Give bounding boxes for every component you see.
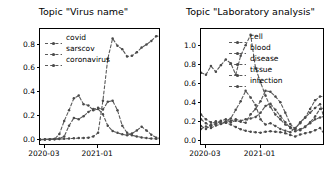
legend-item-sarscov[interactable]: sarscov bbox=[45, 43, 110, 54]
x-tick-mark bbox=[205, 145, 206, 148]
legend-label: coronavirus bbox=[66, 55, 110, 64]
chart-title-right: Topic "Laboratory analysis" bbox=[167, 6, 334, 17]
series-disease bbox=[201, 90, 324, 132]
x-tick-label: 2021-01 bbox=[81, 149, 112, 158]
legend: covidsarscovcoronavirus bbox=[45, 32, 110, 65]
x-tick-mark bbox=[44, 145, 45, 148]
legend-line-marker-icon bbox=[229, 43, 246, 52]
chart-title-left: Topic "Virus name" bbox=[0, 6, 167, 17]
y-tick-mark bbox=[198, 45, 201, 46]
y-tick-mark bbox=[37, 115, 40, 116]
legend-line-marker-icon bbox=[229, 32, 246, 41]
y-tick-label: 0.2 bbox=[184, 117, 196, 126]
panel-right: Topic "Laboratory analysis" 0.00.20.40.6… bbox=[167, 0, 334, 177]
y-tick-mark bbox=[37, 91, 40, 92]
legend-line-marker-icon bbox=[229, 54, 246, 63]
legend-item-coronavirus[interactable]: coronavirus bbox=[45, 54, 110, 65]
legend-line-marker-icon bbox=[229, 76, 246, 85]
y-tick-label: 0.4 bbox=[184, 98, 196, 107]
panel-left: Topic "Virus name" 0.00.20.40.60.82020-0… bbox=[0, 0, 167, 177]
legend-label: tissue bbox=[250, 65, 272, 74]
legend-label: blood bbox=[250, 43, 271, 52]
y-tick-label: 0.8 bbox=[184, 60, 196, 69]
y-tick-mark bbox=[198, 121, 201, 122]
y-tick-label: 0.8 bbox=[23, 39, 35, 48]
figure-twin-line-charts: Topic "Virus name" 0.00.20.40.60.82020-0… bbox=[0, 0, 334, 177]
y-tick-mark bbox=[198, 83, 201, 84]
legend-line-marker-icon bbox=[229, 65, 246, 74]
y-tick-mark bbox=[198, 102, 201, 103]
x-tick-mark bbox=[260, 145, 261, 148]
y-tick-label: 0.0 bbox=[184, 136, 196, 145]
legend-item-infection[interactable]: infection bbox=[229, 75, 283, 86]
legend-label: disease bbox=[250, 54, 278, 63]
legend-label: sarscov bbox=[66, 44, 95, 53]
legend-line-marker-icon bbox=[45, 55, 62, 64]
legend-item-tissue[interactable]: tissue bbox=[229, 64, 283, 75]
legend-label: infection bbox=[250, 76, 283, 85]
y-tick-label: 0.2 bbox=[23, 111, 35, 120]
x-tick-label: 2021-01 bbox=[244, 149, 275, 158]
legend-item-cell[interactable]: cell bbox=[229, 31, 283, 42]
y-tick-mark bbox=[198, 64, 201, 65]
y-tick-label: 1.0 bbox=[184, 41, 196, 50]
legend-line-marker-icon bbox=[45, 44, 62, 53]
y-tick-label: 0.4 bbox=[23, 87, 35, 96]
y-tick-mark bbox=[37, 139, 40, 140]
legend-label: covid bbox=[66, 33, 86, 42]
legend: cellblooddiseasetissueinfection bbox=[229, 31, 283, 86]
legend-line-marker-icon bbox=[45, 33, 62, 42]
legend-label: cell bbox=[250, 32, 263, 41]
y-tick-label: 0.6 bbox=[184, 79, 196, 88]
x-tick-mark bbox=[97, 145, 98, 148]
x-tick-label: 2020-03 bbox=[28, 149, 59, 158]
y-tick-mark bbox=[37, 44, 40, 45]
y-tick-mark bbox=[37, 67, 40, 68]
legend-item-blood[interactable]: blood bbox=[229, 42, 283, 53]
legend-item-disease[interactable]: disease bbox=[229, 53, 283, 64]
x-tick-label: 2020-03 bbox=[189, 149, 220, 158]
y-tick-mark bbox=[198, 140, 201, 141]
y-tick-label: 0.0 bbox=[23, 135, 35, 144]
legend-item-covid[interactable]: covid bbox=[45, 32, 110, 43]
y-tick-label: 0.6 bbox=[23, 63, 35, 72]
